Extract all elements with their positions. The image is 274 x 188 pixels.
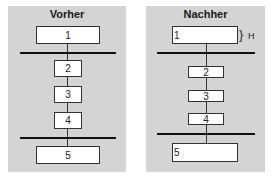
box-4: 4	[188, 113, 224, 125]
panel-title-vorher: Vorher	[8, 8, 126, 20]
box-5: 5	[36, 146, 100, 164]
separator-bar-bottom	[20, 137, 116, 139]
box-1: 1	[172, 26, 238, 44]
box-4: 4	[54, 112, 82, 129]
panel-nachher: Nachher 1 } H 2 3 4 5	[146, 6, 265, 172]
panel-vorher: Vorher 1 2 3 4 5	[8, 6, 126, 172]
box-5: 5	[172, 143, 238, 162]
height-brace-icon: }	[239, 28, 243, 41]
box-2: 2	[188, 66, 224, 78]
box-1: 1	[36, 26, 100, 44]
height-label: H	[248, 31, 255, 41]
box-2: 2	[54, 60, 82, 77]
separator-bar-bottom	[157, 133, 255, 135]
box-3: 3	[54, 86, 82, 103]
separator-bar-top	[20, 52, 116, 54]
panel-title-nachher: Nachher	[146, 8, 265, 20]
box-3: 3	[188, 90, 224, 102]
separator-bar-top	[157, 52, 255, 54]
